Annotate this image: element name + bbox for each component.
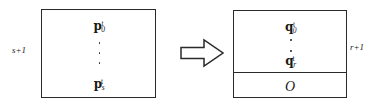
zero-block-label: O bbox=[234, 80, 346, 94]
left-matrix-box: p0t pst bbox=[41, 9, 156, 98]
right-dim-text: r+1 bbox=[350, 42, 364, 52]
dot bbox=[99, 42, 101, 44]
right-matrix-dimension-label: r+1 bbox=[350, 43, 364, 52]
right-matrix-upper-block: q0t qrt bbox=[234, 11, 346, 73]
dot bbox=[99, 62, 101, 64]
entry-ps: pst bbox=[42, 78, 155, 92]
right-matrix-zero-block: O bbox=[234, 73, 346, 97]
left-matrix-vertical-dots-icon bbox=[42, 42, 156, 64]
entry-qr: qrt bbox=[234, 55, 346, 69]
entry-ps-superscript: t bbox=[101, 77, 103, 86]
matrix-transformation-figure: s+1 p0t pst q0t bbox=[0, 0, 383, 105]
right-arrow-icon bbox=[180, 38, 224, 68]
dot bbox=[290, 39, 292, 41]
entry-p0-superscript: t bbox=[101, 19, 103, 28]
right-matrix-vertical-dots-icon bbox=[234, 39, 347, 52]
dot bbox=[99, 52, 101, 54]
entry-q0: q0t bbox=[234, 21, 346, 35]
left-matrix-dimension-label: s+1 bbox=[12, 46, 26, 55]
dot bbox=[290, 50, 292, 52]
entry-p0: p0t bbox=[42, 20, 155, 34]
right-matrix-box: q0t qrt O bbox=[233, 10, 347, 98]
left-dim-text: s+1 bbox=[12, 45, 26, 55]
entry-qr-superscript: t bbox=[293, 54, 295, 63]
entry-q0-superscript: t bbox=[293, 20, 295, 29]
